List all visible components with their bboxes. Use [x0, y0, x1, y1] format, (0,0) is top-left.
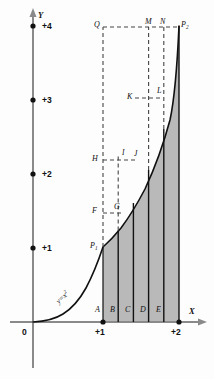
point-label-B: B: [110, 305, 115, 314]
point-label-L: L: [157, 86, 161, 95]
point-label-P1: P1: [90, 241, 97, 250]
y-tick-label-4: +4: [42, 21, 52, 31]
point-label-D: D: [140, 305, 146, 314]
y-tick-dot-3: [30, 97, 35, 102]
y-tick-label-1: +1: [42, 243, 52, 253]
point-label-K: K: [127, 92, 132, 101]
diagram-svg: [0, 0, 214, 379]
y-tick-label-3: +3: [42, 95, 52, 105]
point-label-E: E: [156, 305, 161, 314]
x-axis-arrow: [198, 319, 207, 326]
point-label-J: J: [134, 149, 137, 158]
point-label-N: N: [160, 17, 165, 26]
y-tick-label-2: +2: [42, 169, 52, 179]
origin-label: 0: [22, 327, 27, 337]
point-label-G: G: [114, 202, 120, 211]
x-axis-label: X: [189, 306, 195, 316]
y-tick-dot-4: [30, 23, 35, 28]
point-label-A: A: [95, 305, 100, 314]
point-label-Q: Q: [94, 20, 100, 29]
y-axis-arrow: [30, 8, 37, 17]
y-tick-dot-1: [30, 245, 35, 250]
y-tick-dot-2: [30, 171, 35, 176]
point-label-M: M: [145, 17, 152, 26]
shaded-area-under-curve: [103, 26, 179, 322]
point-label-I: I: [122, 148, 125, 157]
x-tick-label-1: +1: [95, 327, 105, 337]
y-axis-label: Y: [38, 10, 43, 20]
point-label-F: F: [92, 206, 97, 215]
point-label-H: H: [92, 154, 98, 163]
figure-canvas: +4 +3 +2 +1 +1 +2 Y X 0 A B C D E Q M N …: [0, 0, 214, 379]
x-tick-label-2: +2: [171, 327, 181, 337]
point-label-C: C: [125, 305, 130, 314]
point-label-P2: P2: [181, 20, 188, 29]
